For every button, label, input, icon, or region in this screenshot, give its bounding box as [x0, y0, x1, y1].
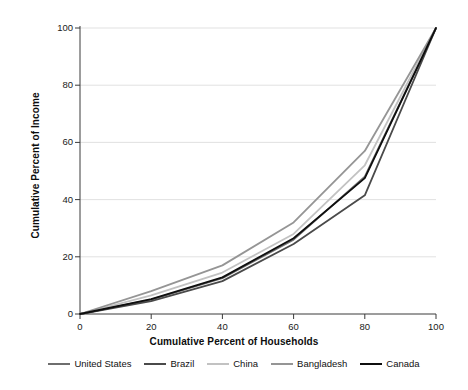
x-tick-label-80: 80: [345, 321, 385, 332]
x-tick-label-40: 40: [202, 321, 242, 332]
y-tick-label-60: 60: [39, 136, 73, 147]
legend-label: China: [233, 358, 258, 369]
legend-item-canada[interactable]: Canada: [360, 358, 419, 369]
data-series-group: [80, 28, 436, 314]
x-tick-label-100: 100: [416, 321, 456, 332]
legend-swatch-icon: [48, 363, 70, 365]
series-line-united-states: [80, 28, 436, 314]
lorenz-curve-chart: Cumulative Percent of Income Cumulative …: [0, 0, 468, 390]
y-tick-label-80: 80: [39, 79, 73, 90]
legend-swatch-icon: [271, 363, 293, 365]
chart-legend: United StatesBrazilChinaBangladeshCanada: [0, 358, 468, 369]
legend-label: Brazil: [170, 358, 194, 369]
y-tick-label-100: 100: [39, 22, 73, 33]
axis-ticks: [75, 28, 436, 319]
series-line-bangladesh: [80, 28, 436, 314]
y-tick-label-40: 40: [39, 194, 73, 205]
x-tick-label-20: 20: [131, 321, 171, 332]
legend-label: Bangladesh: [297, 358, 347, 369]
legend-item-bangladesh[interactable]: Bangladesh: [271, 358, 347, 369]
legend-item-brazil[interactable]: Brazil: [144, 358, 194, 369]
legend-swatch-icon: [207, 363, 229, 365]
legend-item-china[interactable]: China: [207, 358, 258, 369]
series-line-brazil: [80, 28, 436, 314]
legend-label: United States: [74, 358, 131, 369]
series-line-canada: [80, 28, 436, 314]
x-tick-label-0: 0: [60, 321, 100, 332]
legend-swatch-icon: [144, 363, 166, 365]
axis-lines: [80, 26, 436, 314]
series-line-china: [80, 28, 436, 314]
legend-swatch-icon: [360, 363, 382, 365]
y-tick-label-20: 20: [39, 251, 73, 262]
x-tick-label-60: 60: [274, 321, 314, 332]
y-tick-label-0: 0: [39, 308, 73, 319]
x-axis-title: Cumulative Percent of Households: [0, 336, 468, 347]
legend-item-united-states[interactable]: United States: [48, 358, 131, 369]
legend-label: Canada: [386, 358, 419, 369]
